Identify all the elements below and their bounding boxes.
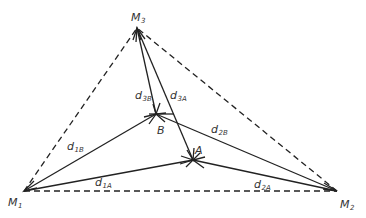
line-d2b	[156, 114, 337, 191]
edge-m1-m3	[24, 28, 137, 191]
label-a: A	[195, 145, 203, 156]
label-d2b: d2B	[211, 124, 228, 137]
label-m3: M3	[131, 12, 145, 25]
outer-triangle	[24, 28, 337, 191]
label-b: B	[157, 125, 165, 136]
label-d3b: d3B	[135, 90, 152, 103]
edge-m2-m3	[137, 28, 337, 191]
label-d2a: d2A	[254, 179, 271, 192]
distance-lines	[24, 28, 337, 191]
label-d3a: d3A	[170, 90, 187, 103]
arrowheads-m2	[323, 183, 337, 191]
label-m2: M2	[340, 199, 354, 212]
label-m1: M1	[8, 197, 22, 210]
label-d1b: d1B	[67, 141, 84, 154]
label-d1a: d1A	[95, 177, 112, 190]
triangulation-diagram	[0, 0, 366, 218]
